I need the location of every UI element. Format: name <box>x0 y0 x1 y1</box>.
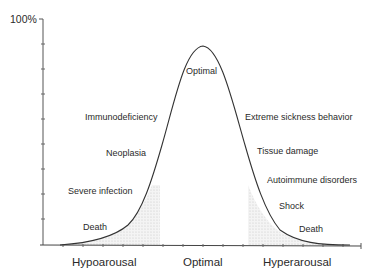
label-death-left: Death <box>83 222 107 232</box>
x-label-hypoarousal: Hypoarousal <box>72 256 137 268</box>
bell-curve-diagram <box>0 0 383 280</box>
label-extreme-sickness: Extreme sickness behavior <box>245 112 353 122</box>
label-neoplasia: Neoplasia <box>106 148 146 158</box>
x-axis <box>40 245 361 246</box>
right-tail-shading <box>248 185 350 245</box>
label-death-right: Death <box>299 224 323 234</box>
label-autoimmune: Autoimmune disorders <box>267 175 357 185</box>
label-tissue-damage: Tissue damage <box>257 146 318 156</box>
x-label-optimal: Optimal <box>183 256 223 268</box>
label-severe-infection: Severe infection <box>68 186 133 196</box>
peak-label: Optimal <box>186 66 217 76</box>
label-immunodeficiency: Immunodeficiency <box>85 112 158 122</box>
label-shock: Shock <box>279 201 304 211</box>
x-label-hyperarousal: Hyperarousal <box>263 256 331 268</box>
y-max-label: 100% <box>10 13 37 25</box>
